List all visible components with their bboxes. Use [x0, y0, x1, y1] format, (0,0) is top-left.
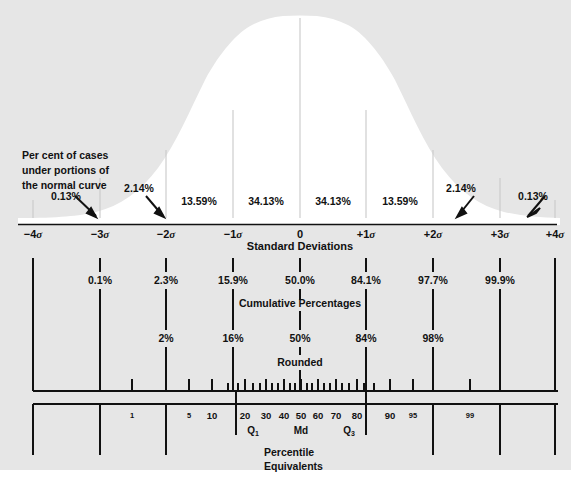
cumulative-label-99-9: 99.9% [485, 274, 515, 286]
cumulative-label-50-0: 50.0% [285, 274, 315, 286]
rounded-label-2: 2% [158, 332, 173, 344]
percentile-label-1: 1 [130, 412, 134, 421]
percentile-label-50: 50 [296, 410, 307, 421]
caption-line-2: Equivalents [264, 459, 323, 473]
rounded-label-98: 98% [422, 332, 443, 344]
cumulative-label-15-9: 15.9% [218, 274, 248, 286]
percentile-label-80: 80 [352, 410, 363, 421]
percentile-equivalents-caption: Percentile Equivalents [264, 445, 323, 474]
median-marker: Md [294, 425, 308, 437]
percentile-label-10: 10 [207, 410, 218, 421]
percentile-label-95: 95 [409, 412, 417, 421]
rounded-title: Rounded [277, 356, 323, 368]
scales-graphic [0, 0, 571, 470]
percentile-label-20: 20 [240, 410, 251, 421]
percentile-tick-marks [132, 379, 470, 391]
rounded-label-50: 50% [289, 332, 310, 344]
percentile-label-90: 90 [385, 410, 396, 421]
cumulative-label-97-7: 97.7% [418, 274, 448, 286]
normal-curve-figure: Per cent of cases under portions of the … [0, 0, 571, 498]
percentile-label-40: 40 [279, 410, 290, 421]
cumulative-label-0-1: 0.1% [88, 274, 112, 286]
first-quartile-marker: Q1 [247, 425, 259, 437]
percentile-step-bracket [33, 378, 555, 391]
cumulative-connector-lines [33, 258, 555, 330]
percentile-label-30: 30 [261, 410, 272, 421]
cumulative-percentages-title: Cumulative Percentages [239, 297, 361, 309]
percentile-label-99: 99 [466, 412, 474, 421]
rounded-label-84: 84% [355, 332, 376, 344]
percentile-label-5: 5 [187, 412, 191, 421]
sigma-connector-lines [33, 258, 555, 272]
cumulative-label-2-3: 2.3% [154, 274, 178, 286]
percentile-label-60: 60 [313, 410, 324, 421]
rounded-label-16: 16% [222, 332, 243, 344]
caption-line-1: Percentile [264, 445, 323, 459]
percentile-label-70: 70 [331, 410, 342, 421]
cumulative-label-84-1: 84.1% [351, 274, 381, 286]
third-quartile-marker: Q3 [343, 425, 355, 437]
